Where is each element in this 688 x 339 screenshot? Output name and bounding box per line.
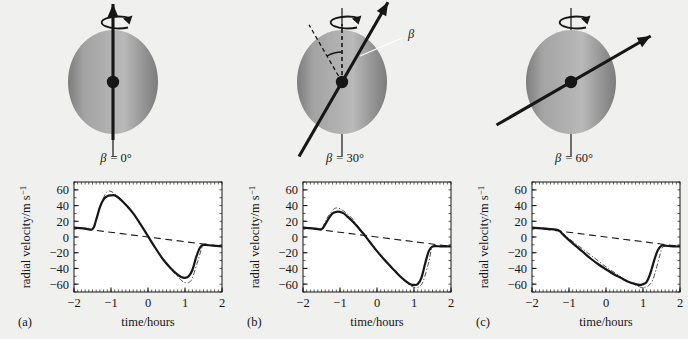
y-tick-label: 60 xyxy=(57,183,70,197)
y-tick-label: 40 xyxy=(515,199,528,213)
x-tick-label: 1 xyxy=(182,296,188,310)
y-tick-label: −60 xyxy=(278,278,298,292)
y-tick-label: 0 xyxy=(521,231,527,245)
sphere-diagram xyxy=(297,2,402,156)
x-tick-label: 0 xyxy=(374,296,380,310)
plot-area: −2−10126040200−20−40−60time/hoursradial … xyxy=(476,182,684,329)
velocity-arrowhead xyxy=(108,4,119,17)
surface-point-marker xyxy=(565,76,577,88)
y-tick-label: 60 xyxy=(515,183,528,197)
y-tick-label: −20 xyxy=(49,246,69,260)
x-tick-label: 1 xyxy=(411,296,417,310)
y-axis-title: radial velocity/m s−1 xyxy=(247,186,263,289)
x-tick-label: −1 xyxy=(562,296,575,310)
x-tick-label: 0 xyxy=(145,296,151,310)
panel-letter: (a) xyxy=(18,315,32,329)
x-tick-label: 2 xyxy=(219,296,225,310)
panel-letter: (c) xyxy=(476,315,490,329)
y-tick-label: −40 xyxy=(49,262,69,276)
x-axis-title: time/hours xyxy=(579,315,633,329)
sphere-diagram xyxy=(68,4,158,156)
x-tick-label: 0 xyxy=(603,296,609,310)
x-tick-label: −1 xyxy=(333,296,346,310)
y-tick-label: −40 xyxy=(278,262,298,276)
surface-point-marker xyxy=(107,76,119,88)
x-tick-label: −2 xyxy=(67,296,80,310)
x-axis-title: time/hours xyxy=(121,315,175,329)
plot-area: −2−10126040200−20−40−60time/hoursradial … xyxy=(247,182,455,329)
y-axis-title: radial velocity/m s−1 xyxy=(18,186,34,289)
y-tick-label: 20 xyxy=(57,215,70,229)
y-tick-label: −20 xyxy=(278,246,298,260)
y-tick-label: −60 xyxy=(49,278,69,292)
panel-b: β= 30°β−2−10126040200−20−40−60time/hours… xyxy=(229,0,458,339)
y-tick-label: −40 xyxy=(507,262,527,276)
y-tick-label: 20 xyxy=(515,215,528,229)
y-tick-label: 40 xyxy=(57,199,70,213)
y-tick-label: 0 xyxy=(63,231,69,245)
y-axis-title: radial velocity/m s−1 xyxy=(476,186,492,289)
beta-angle-label: β xyxy=(407,27,415,41)
y-tick-label: 40 xyxy=(286,199,299,213)
sphere-diagram xyxy=(497,8,651,156)
x-tick-label: −2 xyxy=(296,296,309,310)
x-tick-label: 1 xyxy=(640,296,646,310)
figure-radial-velocity-vs-beta: β= 0°−2−10126040200−20−40−60time/hoursra… xyxy=(0,0,688,339)
y-tick-label: 0 xyxy=(292,231,298,245)
x-tick-label: −1 xyxy=(104,296,117,310)
beta-caption: β= 0° xyxy=(99,151,132,165)
x-tick-label: 2 xyxy=(677,296,683,310)
y-tick-label: 20 xyxy=(286,215,299,229)
y-tick-label: −60 xyxy=(507,278,527,292)
plot-area: −2−10126040200−20−40−60time/hoursradial … xyxy=(18,182,226,329)
panel-letter: (b) xyxy=(247,315,262,329)
beta-caption: β= 30° xyxy=(325,151,364,165)
x-tick-label: −2 xyxy=(525,296,538,310)
panel-c: β= 60°−2−10126040200−20−40−60time/hoursr… xyxy=(458,0,687,339)
beta-caption: β= 60° xyxy=(554,151,593,165)
x-tick-label: 2 xyxy=(448,296,454,310)
panel-a: β= 0°−2−10126040200−20−40−60time/hoursra… xyxy=(0,0,229,339)
y-tick-label: 60 xyxy=(286,183,299,197)
y-tick-label: −20 xyxy=(507,246,527,260)
x-axis-title: time/hours xyxy=(350,315,404,329)
